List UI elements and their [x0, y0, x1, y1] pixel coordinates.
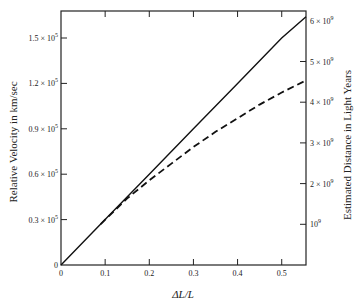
tick-label: 0.3 × 105: [28, 214, 58, 225]
x-tick-label: 0: [59, 269, 63, 278]
tick-label: 2 × 109: [310, 178, 334, 189]
tick-label: 5 × 109: [310, 56, 334, 67]
y-axis-right-ticks: 1092 × 1093 × 1094 × 1095 × 1096 × 109: [300, 15, 334, 230]
x-axis-title: ΔL/L: [171, 288, 194, 300]
tick-label: 4 × 109: [310, 96, 334, 107]
tick-label: 3 × 109: [310, 137, 334, 148]
x-tick-label: 0.4: [233, 269, 243, 278]
tick-label: 1.2 × 105: [28, 77, 58, 88]
tick-label: 0: [54, 261, 58, 270]
estimated-distance-dashed-curve: [101, 80, 306, 224]
x-tick-label: 0.5: [277, 269, 287, 278]
x-tick-label: 0.2: [144, 269, 154, 278]
tick-label: 1.5 × 105: [28, 32, 58, 43]
chart-canvas: 00.10.20.30.40.5 00.3 × 1050.6 × 1050.9 …: [0, 0, 360, 307]
x-tick-label: 0.1: [100, 269, 110, 278]
tick-label: 0.9 × 105: [28, 123, 58, 134]
linear-velocity-line: [61, 17, 306, 265]
tick-label: 109: [310, 218, 321, 229]
x-tick-label: 0.3: [188, 269, 198, 278]
y-axis-left-title: Relative Velocity in km/sec: [7, 81, 19, 202]
y-axis-right-title: Estimated Distance in Light Years: [341, 70, 353, 220]
tick-label: 6 × 109: [310, 15, 334, 26]
tick-label: 0.6 × 105: [28, 168, 58, 179]
x-axis-ticks: 00.10.20.30.40.5: [59, 11, 287, 278]
